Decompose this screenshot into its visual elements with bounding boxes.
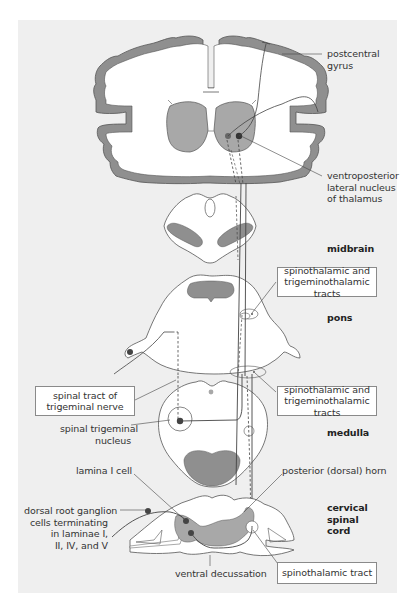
cerebrum-section (94, 36, 329, 184)
label-pons: pons (327, 312, 352, 324)
drg-neuron (145, 508, 151, 514)
label-midbrain: midbrain (327, 243, 374, 255)
spinal-cord-section (112, 495, 294, 566)
white-matter (105, 44, 318, 177)
label-posterior-horn: posterior (dorsal) horn (282, 465, 387, 477)
midbrain-section (164, 194, 256, 263)
label-postcentral-gyrus: postcentral gyrus (327, 48, 380, 71)
label-lamina-i-cell: lamina I cell (60, 465, 132, 477)
pons-section (114, 275, 300, 376)
box-tracts-medulla: spinothalamic and trigeminothalamic trac… (277, 386, 377, 416)
box-spinal-tract-trigeminal: spinal tract of trigeminal nerve (35, 386, 135, 416)
cerebral-aqueduct (205, 199, 215, 217)
box-tracts-pons: spinothalamic and trigeminothalamic trac… (277, 267, 377, 297)
left-thalamus (167, 102, 208, 152)
box-spinothalamic-tract: spinothalamic tract (277, 562, 377, 584)
medulla-section (159, 366, 268, 487)
label-cervical-spinal-cord: cervical spinal cord (327, 502, 368, 537)
trigeminal-ganglion-neuron (127, 349, 133, 355)
label-medulla: medulla (327, 427, 369, 439)
label-ventral-decussation: ventral decussation (175, 568, 267, 580)
label-vpl-nucleus: ventroposterior lateral nucleus of thala… (327, 170, 399, 205)
label-drg-cells: dorsal root ganglion cells terminating i… (24, 505, 108, 551)
label-spinal-trigeminal-nucleus: spinal trigeminal nucleus (60, 423, 131, 446)
